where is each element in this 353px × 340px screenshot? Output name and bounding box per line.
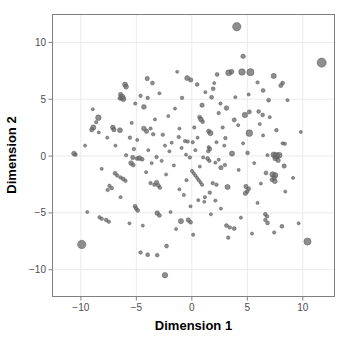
scatter-point: [189, 78, 193, 82]
scatter-point: [283, 142, 286, 145]
scatter-point: [189, 205, 192, 208]
scatter-point: [164, 173, 167, 176]
scatter-point: [118, 96, 122, 100]
scatter-point: [200, 103, 204, 107]
scatter-point: [170, 141, 173, 144]
scatter-point: [144, 129, 148, 133]
scatter-point: [182, 193, 185, 196]
scatter-point: [74, 153, 78, 157]
scatter-point: [161, 133, 165, 137]
scatter-point: [106, 188, 110, 192]
scatter-point: [191, 233, 194, 236]
scatter-point: [96, 115, 102, 121]
scatter-point: [217, 111, 221, 115]
scatter-point: [219, 207, 222, 210]
scatter-point: [131, 163, 135, 167]
scatter-point: [209, 213, 212, 216]
scatter-point: [257, 110, 261, 114]
scatter-point: [158, 92, 161, 95]
scatter-point: [213, 82, 216, 85]
scatter-point: [155, 155, 159, 159]
scatter-point: [160, 159, 163, 162]
scatter-point: [184, 153, 187, 156]
scatter-point: [299, 130, 302, 133]
scatter-point: [256, 81, 259, 84]
scatter-point: [139, 94, 143, 98]
scatter-point: [241, 54, 246, 59]
scatter-point: [247, 93, 250, 96]
scatter-point: [128, 222, 131, 225]
scatter-point: [139, 251, 143, 255]
scatter-point: [163, 144, 166, 147]
scatter-point: [284, 190, 287, 193]
scatter-point: [266, 221, 270, 225]
scatter-point: [214, 199, 217, 202]
y-tick-label: 5: [40, 94, 46, 105]
scatter-point: [291, 176, 294, 179]
scatter-point: [242, 142, 245, 145]
y-axis-title: Dimension 2: [4, 116, 19, 193]
scatter-point: [215, 72, 219, 76]
scatter-point: [276, 158, 280, 162]
scatter-point: [146, 253, 150, 257]
scatter-point: [162, 272, 168, 278]
scatter-point: [141, 105, 146, 110]
scatter-point: [258, 122, 261, 125]
scatter-point: [191, 141, 194, 144]
scatter-point: [226, 236, 230, 240]
scatter-point: [136, 208, 140, 212]
scatter-point: [189, 220, 193, 224]
scatter-point: [224, 106, 229, 111]
scatter-point: [193, 126, 196, 129]
scatter-point: [178, 218, 183, 223]
x-tick-label: 10: [297, 302, 309, 313]
scatter-point: [229, 69, 234, 74]
scatter-point: [106, 136, 109, 139]
scatter-point: [261, 134, 264, 137]
scatter-point: [90, 128, 94, 132]
scatter-point: [153, 118, 156, 121]
scatter-point: [147, 149, 150, 152]
scatter-point: [178, 188, 181, 191]
scatter-point: [158, 186, 162, 190]
scatter-point: [149, 127, 152, 130]
scatter-point: [185, 178, 188, 181]
scatter-point: [304, 238, 311, 245]
x-axis-title: Dimension 1: [155, 318, 232, 333]
scatter-point: [165, 244, 169, 248]
scatter-point: [229, 151, 234, 156]
scatter-point: [131, 155, 135, 159]
scatter-point: [266, 154, 269, 157]
scatter-point: [242, 112, 247, 117]
scatter-point: [261, 88, 265, 92]
y-tick-label: 10: [35, 37, 47, 48]
scatter-point: [243, 191, 247, 195]
x-tick-label: 5: [245, 302, 251, 313]
scatter-point: [271, 73, 276, 78]
scatter-point: [259, 182, 262, 185]
scatter-point: [286, 99, 289, 102]
scatter-point: [150, 81, 154, 85]
scatter-point: [214, 161, 217, 164]
scatter-point: [297, 222, 300, 225]
scatter-point: [174, 227, 177, 230]
scatter-point: [141, 224, 144, 227]
scatter-point: [145, 76, 149, 80]
scatter-point: [180, 146, 183, 149]
scatter-point: [130, 121, 133, 124]
scatter-point: [232, 118, 236, 122]
scatter-point: [275, 128, 279, 132]
scatter-point: [239, 216, 242, 219]
scatter-point: [211, 181, 215, 185]
plot-canvas: −10−50510 1050−5−10 Dimension 1 Dimensio…: [0, 0, 353, 340]
scatter-point: [146, 96, 150, 100]
scatter-point: [124, 153, 127, 156]
scatter-point: [280, 224, 284, 228]
scatter-point: [100, 167, 103, 170]
scatter-point: [208, 159, 212, 163]
scatter-point: [180, 96, 184, 100]
scatter-point: [117, 128, 122, 133]
scatter-point: [172, 164, 175, 167]
scatter-point: [228, 226, 232, 230]
scatter-point: [132, 147, 136, 151]
